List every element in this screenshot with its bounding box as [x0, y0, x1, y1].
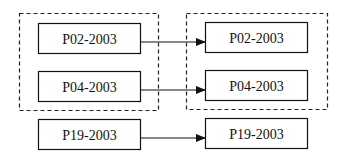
right-node-3-label: P19-2003 — [229, 127, 283, 142]
left-node-1: P02-2003 — [39, 24, 141, 54]
left-node-2-label: P04-2003 — [62, 80, 116, 95]
right-node-1-label: P02-2003 — [229, 31, 283, 46]
left-node-2: P04-2003 — [39, 72, 141, 102]
left-node-3-label: P19-2003 — [62, 128, 116, 143]
right-node-2: P04-2003 — [206, 71, 308, 101]
right-node-3: P19-2003 — [206, 119, 308, 149]
mapping-diagram: P02-2003 P04-2003 P19-2003 P02-2003 P04-… — [0, 0, 345, 161]
left-node-3: P19-2003 — [39, 120, 141, 150]
left-node-1-label: P02-2003 — [62, 32, 116, 47]
right-node-1: P02-2003 — [206, 23, 308, 53]
right-node-2-label: P04-2003 — [229, 79, 283, 94]
